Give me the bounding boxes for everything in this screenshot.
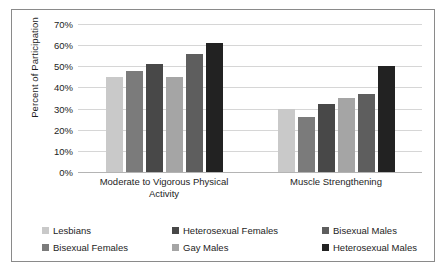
bar (126, 71, 143, 172)
chart-frame: Percent of Participation 0%10%20%30%40%5… (11, 9, 435, 262)
bar (358, 94, 375, 172)
bar (186, 54, 203, 172)
legend-label: Heterosexual Females (183, 225, 278, 236)
legend-swatch-icon (42, 227, 49, 234)
legend-swatch-icon (172, 227, 179, 234)
y-axis-tick: 40% (54, 82, 73, 93)
chart-legend: LesbiansHeterosexual FemalesBisexual Mal… (42, 222, 422, 256)
y-axis-tick: 30% (54, 103, 73, 114)
y-axis-tick: 50% (54, 61, 73, 72)
legend-swatch-icon (322, 244, 329, 251)
legend-item[interactable]: Bisexual Males (322, 225, 422, 236)
bar-group (78, 24, 250, 172)
legend-swatch-icon (172, 244, 179, 251)
bar (298, 117, 315, 172)
y-axis-tick: 10% (54, 145, 73, 156)
legend-item[interactable]: Lesbians (42, 225, 172, 236)
y-axis-tick: 60% (54, 40, 73, 51)
bar (338, 98, 355, 172)
bar (146, 64, 163, 172)
bar (378, 66, 395, 172)
plot-canvas (78, 24, 422, 172)
legend-item[interactable]: Heterosexual Males (322, 242, 422, 253)
x-axis-category-label: Moderate to Vigorous Physical Activity (78, 176, 250, 200)
plot-area: Percent of Participation 0%10%20%30%40%5… (12, 10, 434, 188)
x-axis-category-labels: Moderate to Vigorous Physical ActivityMu… (78, 176, 422, 200)
bar (106, 77, 123, 172)
legend-item[interactable]: Heterosexual Females (172, 225, 322, 236)
axis-line-zero (78, 172, 422, 173)
bar-group (250, 24, 422, 172)
bar (206, 43, 223, 172)
legend-label: Gay Males (183, 242, 228, 253)
x-axis-category-label: Muscle Strengthening (250, 176, 422, 200)
legend-item[interactable]: Bisexual Females (42, 242, 172, 253)
legend-item[interactable]: Gay Males (172, 242, 322, 253)
bar (166, 77, 183, 172)
y-axis-title: Percent of Participation (29, 0, 40, 138)
legend-label: Bisexual Males (333, 225, 397, 236)
y-axis-tick: 20% (54, 124, 73, 135)
legend-label: Heterosexual Males (333, 242, 417, 253)
y-axis-tick: 70% (54, 19, 73, 30)
legend-label: Bisexual Females (53, 242, 128, 253)
y-axis-tick: 0% (59, 167, 73, 178)
bar (278, 109, 295, 172)
bar-groups (78, 24, 422, 172)
legend-swatch-icon (42, 244, 49, 251)
legend-label: Lesbians (53, 225, 91, 236)
bar (318, 104, 335, 172)
legend-swatch-icon (322, 227, 329, 234)
y-axis-tick-labels: 0%10%20%30%40%50%60%70% (40, 24, 76, 172)
